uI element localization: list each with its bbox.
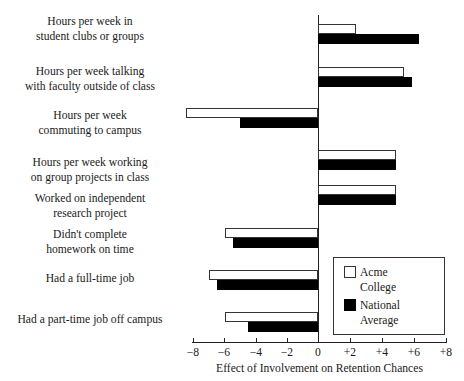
- label-line: with faculty outside of class: [2, 79, 178, 94]
- legend-label-national: National Average: [360, 298, 400, 328]
- tick: [318, 338, 319, 343]
- tick-label: −4: [241, 346, 271, 359]
- label-line: Didn't complete: [2, 227, 178, 242]
- label-line: student clubs or groups: [2, 29, 178, 44]
- x-axis-line: [192, 342, 447, 343]
- tick-label: 0: [303, 346, 333, 359]
- label-line: homework on time: [2, 242, 178, 257]
- bar-national-faculty: [318, 77, 412, 87]
- bar-national-commuting: [240, 118, 318, 128]
- tick-label: +4: [367, 346, 397, 359]
- category-label-part-time-job: Had a part-time job off campus: [2, 312, 178, 327]
- bar-acme-clubs: [318, 24, 356, 34]
- legend-line: Acme: [360, 266, 388, 279]
- tick-label: +6: [399, 346, 429, 359]
- category-label-homework: Didn't complete homework on time: [2, 227, 178, 257]
- bar-acme-part-time-job: [225, 312, 318, 322]
- category-label-clubs: Hours per week in student clubs or group…: [2, 14, 178, 44]
- category-label-group-projects: Hours per week working on group projects…: [2, 155, 178, 185]
- tick-label: +8: [431, 346, 461, 359]
- bar-acme-group-projects: [318, 150, 396, 160]
- bar-acme-research: [318, 185, 396, 195]
- bar-acme-commuting: [186, 108, 318, 118]
- legend-line: Average: [360, 314, 398, 327]
- tick-label: −6: [209, 346, 239, 359]
- tick: [446, 338, 447, 343]
- tick: [256, 338, 257, 343]
- legend-line: National: [360, 299, 400, 312]
- bar-national-research: [318, 195, 396, 205]
- label-line: commuting to campus: [2, 123, 178, 138]
- bar-acme-full-time-job: [209, 270, 318, 280]
- tick: [224, 338, 225, 343]
- tick: [287, 338, 288, 343]
- tick: [193, 338, 194, 343]
- label-line: Hours per week working: [2, 155, 178, 170]
- category-label-commuting: Hours per week commuting to campus: [2, 108, 178, 138]
- category-label-faculty: Hours per week talking with faculty outs…: [2, 64, 178, 94]
- tick: [350, 338, 351, 343]
- legend-label-acme: Acme College: [360, 265, 396, 295]
- category-label-research: Worked on independent research project: [2, 191, 178, 221]
- legend: Acme College National Average: [333, 257, 445, 335]
- bar-national-part-time-job: [248, 322, 318, 332]
- bar-national-homework: [233, 238, 318, 248]
- x-axis-title: Effect of Involvement on Retention Chanc…: [192, 362, 447, 375]
- bar-acme-faculty: [318, 67, 404, 77]
- label-line: Hours per week: [2, 108, 178, 123]
- bar-national-full-time-job: [217, 280, 318, 290]
- zero-line: [318, 15, 319, 343]
- legend-swatch-acme: [344, 266, 356, 278]
- bar-national-clubs: [318, 34, 419, 44]
- label-line: Hours per week in: [2, 14, 178, 29]
- tick-label: −2: [272, 346, 302, 359]
- label-line: Had a part-time job off campus: [2, 312, 178, 327]
- tick: [414, 338, 415, 343]
- label-line: Hours per week talking: [2, 64, 178, 79]
- tick-label: −8: [178, 346, 208, 359]
- tick: [382, 338, 383, 343]
- category-label-full-time-job: Had a full-time job: [2, 271, 178, 286]
- label-line: on group projects in class: [2, 170, 178, 185]
- label-line: Had a full-time job: [2, 271, 178, 286]
- bar-acme-homework: [225, 228, 318, 238]
- label-line: research project: [2, 206, 178, 221]
- tick-label: +2: [335, 346, 365, 359]
- bar-national-group-projects: [318, 160, 396, 170]
- label-line: Worked on independent: [2, 191, 178, 206]
- legend-swatch-national: [344, 299, 356, 311]
- legend-line: College: [360, 281, 396, 294]
